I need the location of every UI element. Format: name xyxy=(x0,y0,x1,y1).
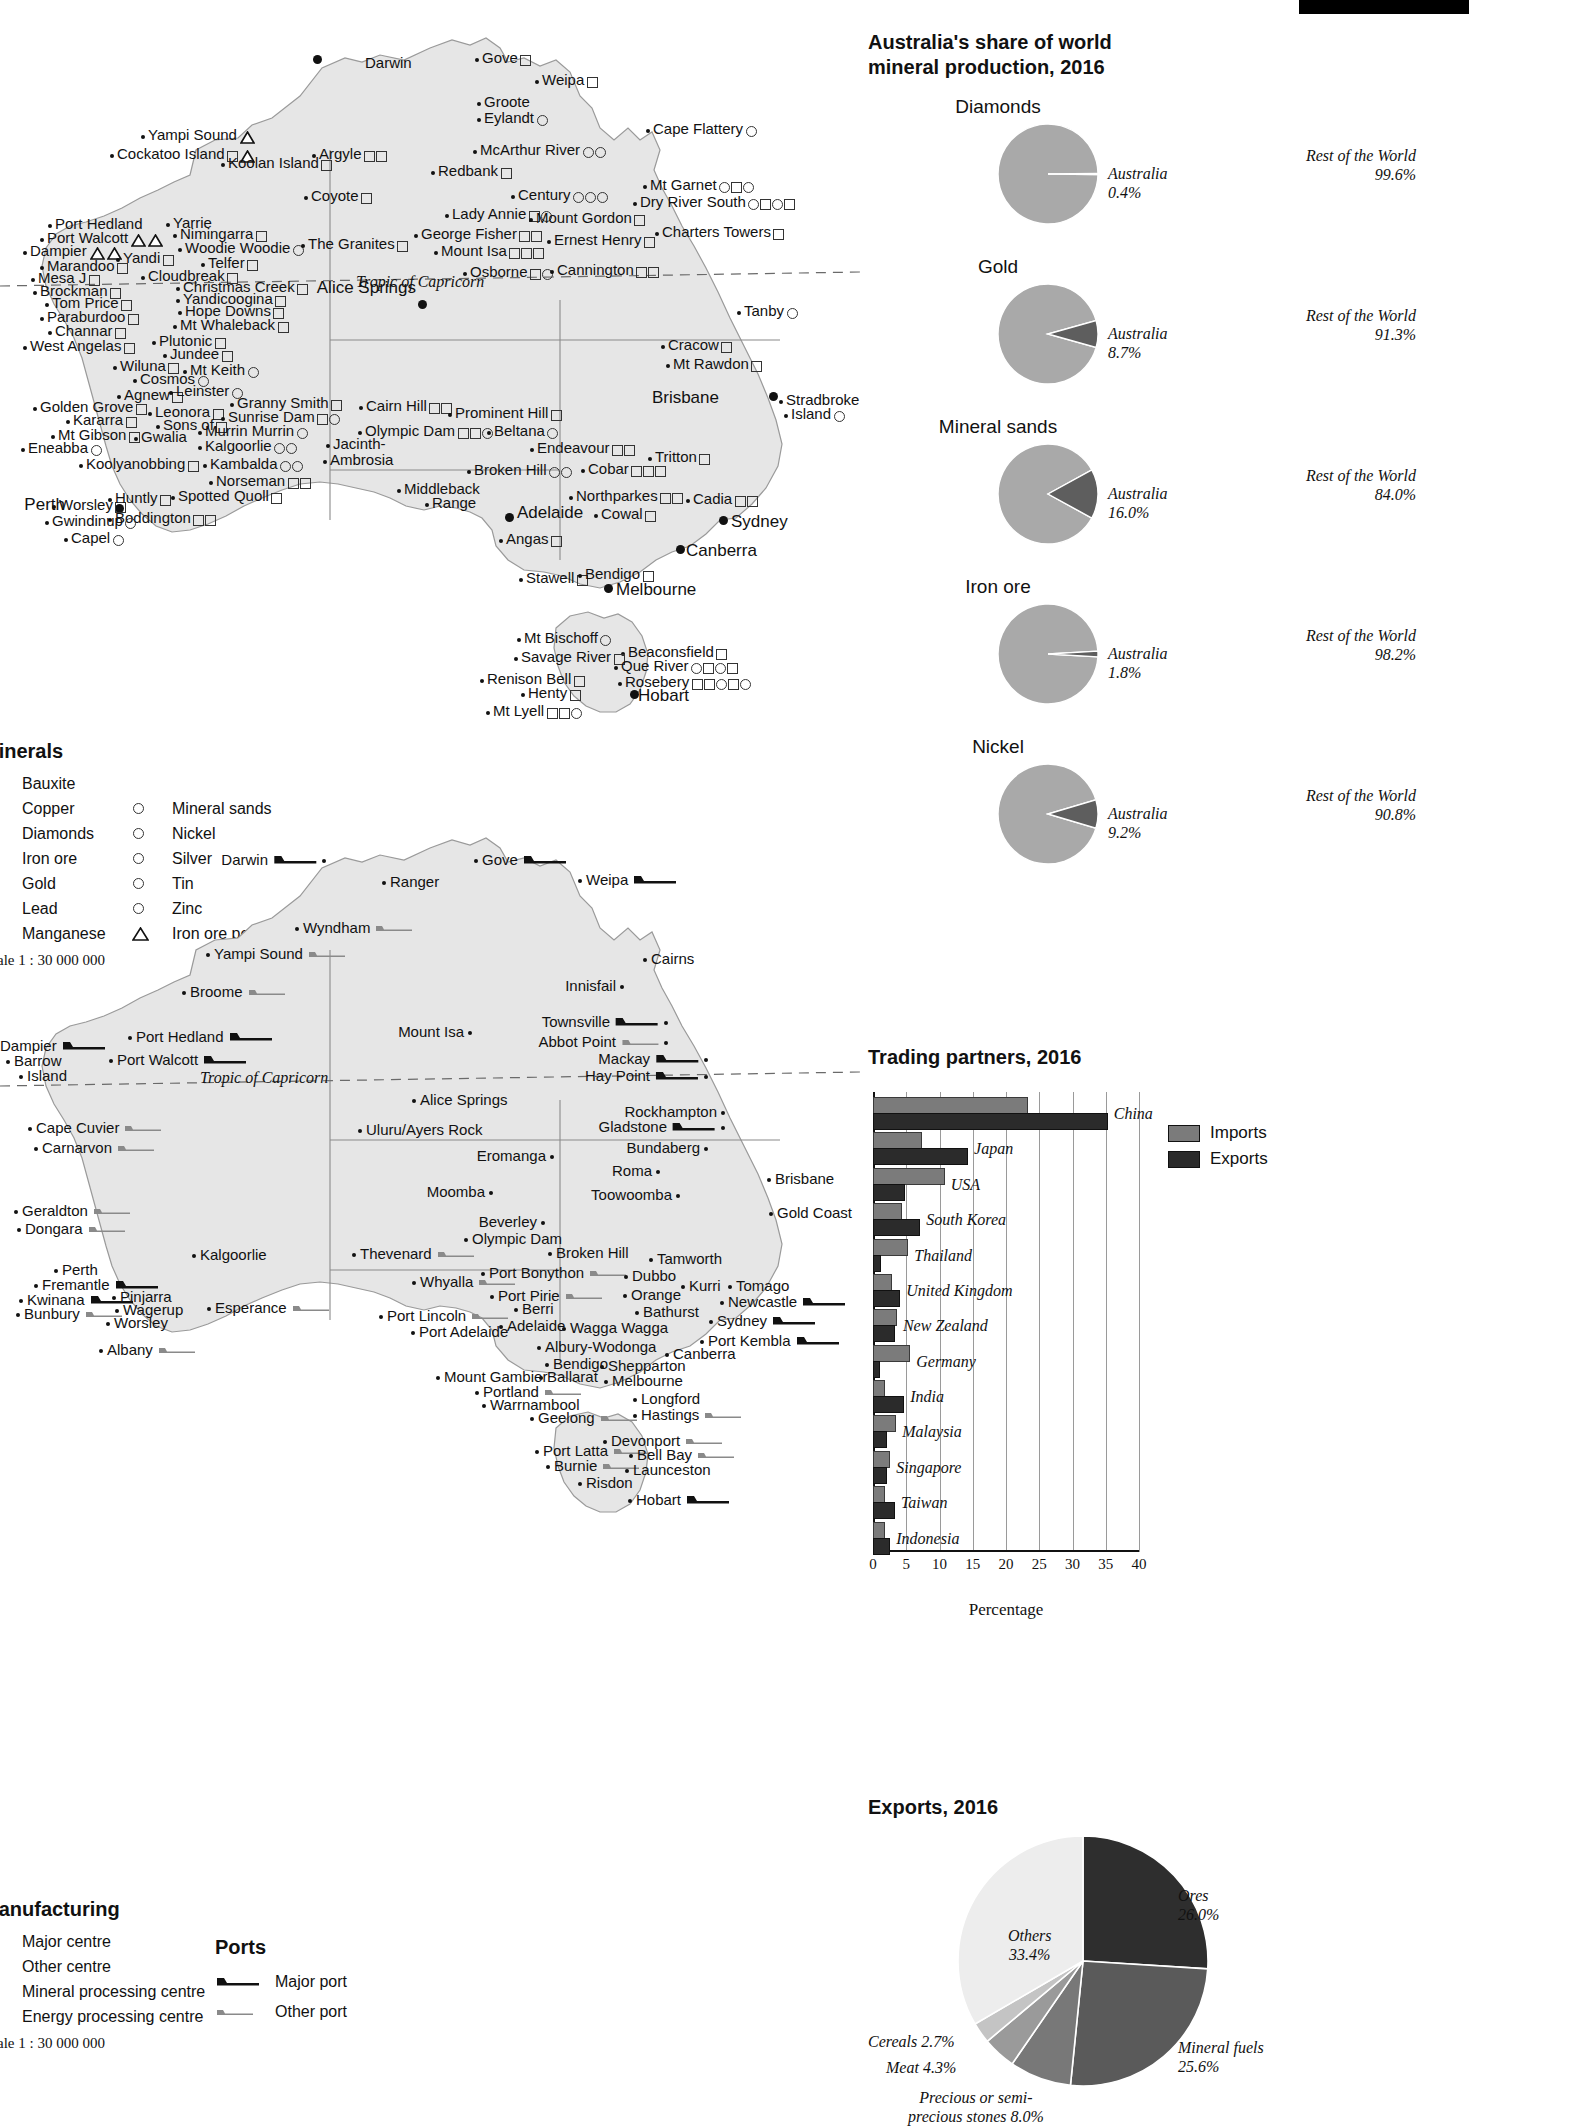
place-dubbo: Dubbo xyxy=(632,1268,676,1284)
place-cairns: Cairns xyxy=(651,951,694,967)
place-dot xyxy=(14,1210,18,1214)
bar-row: Malaysia xyxy=(873,1412,1139,1443)
bar-imports xyxy=(873,1274,892,1291)
bar-row: Singapore xyxy=(873,1448,1139,1479)
major-port-icon xyxy=(685,1494,731,1506)
place-label: Whyalla xyxy=(420,1273,473,1290)
place-label: Gladstone xyxy=(599,1118,667,1135)
place-darwin: Darwin xyxy=(221,852,318,869)
place-beverley: Beverley xyxy=(479,1214,537,1230)
pie-label-australia: Australia16.0% xyxy=(1108,484,1168,522)
bar-row: Indonesia xyxy=(873,1519,1139,1550)
place-label: Broome xyxy=(190,983,243,1000)
place-uluru-ayers-rock: Uluru/Ayers Rock xyxy=(366,1122,482,1138)
bar-imports xyxy=(873,1203,902,1220)
place-gove: Gove xyxy=(482,852,568,869)
legend-swatch xyxy=(1168,1151,1200,1168)
place-dot xyxy=(537,1346,541,1350)
place-dot xyxy=(562,1327,566,1331)
place-worsley: Worsley xyxy=(114,1315,168,1331)
exports-pie-label: Cereals 2.7% xyxy=(868,2032,955,2051)
pie-block-nickel: NickelRest of the World90.8%Australia9.2… xyxy=(868,736,1587,878)
major-port-icon xyxy=(61,1040,107,1052)
ports-legend-row: Major port xyxy=(215,1967,515,1997)
place-abbot-point: Abbot Point xyxy=(538,1034,660,1051)
pie-svg xyxy=(998,764,1098,864)
major-port-icon xyxy=(801,1296,847,1308)
x-axis-tick: 30 xyxy=(1065,1556,1080,1573)
major-port-icon xyxy=(671,1121,717,1133)
pie-label-rest: Rest of the World98.2% xyxy=(1306,626,1416,664)
pie-title: Iron ore xyxy=(868,576,1128,598)
pie-label-australia: Australia0.4% xyxy=(1108,164,1168,202)
trading-partners-legend: ImportsExports xyxy=(1168,1123,1268,1175)
bar-category-label: Germany xyxy=(916,1353,976,1371)
bar-imports xyxy=(873,1486,885,1503)
place-broome: Broome xyxy=(190,984,287,1001)
mineral-share-title: Australia's share of world mineral produ… xyxy=(868,30,1587,80)
place-label: Port Hedland xyxy=(136,1028,224,1045)
place-kalgoorlie: Kalgoorlie xyxy=(200,1247,267,1263)
bar-imports xyxy=(873,1415,896,1432)
place-dot xyxy=(207,1307,211,1311)
place-dot xyxy=(550,1155,554,1159)
place-sydney: Sydney xyxy=(717,1313,817,1330)
place-cape-cuvier: Cape Cuvier xyxy=(36,1120,163,1137)
legend-swatch xyxy=(1168,1125,1200,1142)
place-label: Bundaberg xyxy=(627,1139,700,1156)
bar-category-label: China xyxy=(1114,1105,1153,1123)
place-gold-coast: Gold Coast xyxy=(777,1205,852,1221)
pie-label-rest: Rest of the World99.6% xyxy=(1306,146,1416,184)
bar-category-label: Indonesia xyxy=(896,1530,959,1548)
manufacturing-map-labels: DarwinGoveRangerWeipaWyndhamYampi SoundC… xyxy=(0,0,860,1560)
place-label: Bathurst xyxy=(643,1303,699,1320)
other-port-icon xyxy=(157,1345,197,1356)
place-dot xyxy=(514,1308,518,1312)
place-dot xyxy=(412,1281,416,1285)
place-mackay: Mackay xyxy=(598,1051,700,1068)
place-label: Toowoomba xyxy=(591,1186,672,1203)
pie-block-iron-ore: Iron oreRest of the World98.2%Australia1… xyxy=(868,576,1587,718)
pie-svg xyxy=(998,124,1098,224)
exports-pie-svg xyxy=(958,1836,1208,2086)
place-label: Moomba xyxy=(427,1183,485,1200)
place-label: Wyndham xyxy=(303,919,370,936)
other-port-icon xyxy=(123,1123,163,1134)
place-island: Island xyxy=(27,1068,67,1084)
ports-legend-row: Other port xyxy=(215,1997,515,2027)
place-port-hedland: Port Hedland xyxy=(136,1029,274,1046)
bar-category-label: New Zealand xyxy=(903,1317,988,1335)
pie-svg xyxy=(998,444,1098,544)
other-port-icon xyxy=(470,1311,510,1322)
pie-title: Gold xyxy=(868,256,1128,278)
place-dot xyxy=(16,1313,20,1317)
exports-pie-label: Others33.4% xyxy=(1008,1926,1052,1964)
place-label: Brisbane xyxy=(775,1170,834,1187)
major-port-icon xyxy=(215,1976,261,1988)
trading-partners-chart: Trading partners, 2016 ChinaJapanUSASout… xyxy=(868,1045,1587,1620)
other-port-icon xyxy=(247,987,287,998)
place-label: Carnarvon xyxy=(42,1139,112,1156)
other-port-icon xyxy=(116,1143,156,1154)
exports-pie-area: Ores26.0%Mineral fuels25.6%Precious or s… xyxy=(868,1826,1568,2126)
place-dot xyxy=(489,1191,493,1195)
place-dot xyxy=(192,1254,196,1258)
place-label: Warrnambool xyxy=(490,1396,579,1413)
other-port-icon xyxy=(215,2007,255,2018)
place-dot xyxy=(530,1417,534,1421)
place-dot xyxy=(54,1269,58,1273)
place-dot xyxy=(468,1031,472,1035)
place-bunbury: Bunbury xyxy=(24,1306,124,1323)
place-dot xyxy=(541,1221,545,1225)
place-dot xyxy=(656,1170,660,1174)
place-dot xyxy=(635,1311,639,1315)
place-label: Eromanga xyxy=(477,1147,546,1164)
other-port-icon xyxy=(87,1224,127,1235)
other-port-icon xyxy=(291,1303,331,1314)
place-dot xyxy=(112,1296,116,1300)
place-dot xyxy=(412,1099,416,1103)
place-dot xyxy=(295,927,299,931)
major-port-icon xyxy=(202,1054,248,1066)
place-dot xyxy=(535,1450,539,1454)
